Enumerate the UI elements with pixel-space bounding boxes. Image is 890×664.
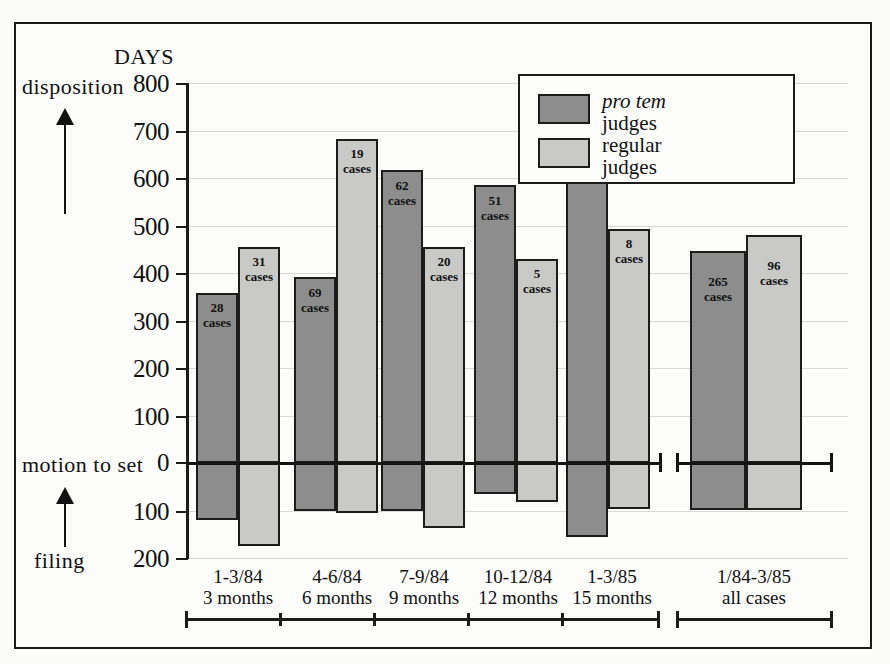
bar-pro-tem-10-12-84-above[interactable] — [474, 185, 516, 463]
bar-regular-10-12-84-below[interactable] — [516, 462, 558, 502]
bar-label-pro-tem-10-12-84: 51 cases — [474, 193, 516, 223]
bar-label-unit: cases — [301, 300, 329, 315]
bar-label-count: 8 — [626, 236, 633, 251]
bar-regular-1-3-84-below[interactable] — [238, 462, 280, 546]
x-label-group-6: 1/84-3/85 all cases — [690, 566, 818, 608]
chart-canvas: 800 700 600 500 400 300 200 100 0 100 20… — [0, 0, 890, 664]
y-tick-label-100: 100 — [105, 404, 169, 429]
y-tick-label-600: 600 — [105, 166, 169, 191]
legend-label-pro-tem-rest: judges — [602, 111, 657, 135]
annotation-filing: filing — [34, 548, 85, 574]
bar-label-unit: cases — [430, 269, 458, 284]
bar-regular-4-6-84-below[interactable] — [336, 462, 378, 513]
bar-label-count: 69 — [309, 285, 322, 300]
y-axis-title: DAYS — [114, 44, 174, 70]
y-tick-600 — [176, 178, 188, 180]
x-label-group-5: 1-3/85 15 months — [552, 566, 672, 608]
ruler-quarters-cap-left — [185, 611, 188, 628]
legend-label-pro-tem: pro tem judges — [602, 90, 666, 134]
gridline-500 — [188, 226, 848, 227]
bar-label-pro-tem-1-3-84: 28 cases — [196, 300, 238, 330]
y-tick-800 — [176, 83, 188, 85]
ruler-tick-3-months — [279, 613, 282, 626]
bar-pro-tem-1-3-84-below[interactable] — [196, 462, 238, 520]
ruler-all-cases-cap-right — [830, 611, 833, 628]
zero-baseline-cap-end — [830, 453, 833, 472]
ruler-tick-12-months — [561, 613, 564, 626]
bar-label-pro-tem-4-6-84: 69 cases — [294, 285, 336, 315]
bar-regular-7-9-84-below[interactable] — [423, 462, 465, 528]
plot-area: 800 700 600 500 400 300 200 100 0 100 20… — [0, 0, 890, 664]
legend: pro tem judges regular judges — [518, 74, 795, 184]
bar-pro-tem-all-cases-below[interactable] — [690, 462, 746, 510]
bar-label-count: 28 — [211, 300, 224, 315]
ruler-tick-9-months — [467, 613, 470, 626]
bar-label-count: 51 — [489, 193, 502, 208]
x-label-span: 12 months — [478, 587, 558, 608]
bar-pro-tem-7-9-84-above[interactable] — [381, 170, 423, 463]
bar-label-unit: cases — [615, 251, 643, 266]
up-arrow-shaft-disposition — [64, 124, 66, 214]
bar-label-pro-tem-7-9-84: 62 cases — [381, 178, 423, 208]
annotation-motion-to-set: motion to set — [22, 452, 143, 478]
bar-label-regular-7-9-84: 20 cases — [423, 254, 465, 284]
x-label-group-1: 1-3/84 3 months — [182, 566, 294, 608]
ruler-quarters-cap-right — [657, 611, 660, 628]
x-label-period: 1/84-3/85 — [717, 566, 791, 587]
x-label-span: 15 months — [572, 587, 652, 608]
y-tick-label-200: 200 — [105, 356, 169, 381]
zero-baseline-main — [188, 462, 661, 465]
y-tick-200 — [176, 368, 188, 370]
ruler-tick-6-months — [373, 613, 376, 626]
x-label-span: 9 months — [389, 587, 459, 608]
y-tick-300 — [176, 321, 188, 323]
bar-regular-4-6-84-above[interactable] — [336, 139, 378, 463]
y-tick-label-500: 500 — [105, 214, 169, 239]
x-label-period: 1-3/84 — [213, 566, 263, 587]
bar-label-count: 62 — [396, 178, 409, 193]
bar-pro-tem-10-12-84-below[interactable] — [474, 462, 516, 494]
bar-label-unit: cases — [203, 315, 231, 330]
legend-label-pro-tem-italic: pro tem — [602, 89, 666, 113]
bar-label-regular-10-12-84: 5 cases — [516, 266, 558, 296]
bar-label-unit: cases — [245, 269, 273, 284]
gridline-neg100 — [188, 511, 848, 512]
bar-label-count: 19 — [351, 146, 364, 161]
legend-label-regular: regular judges — [602, 134, 661, 178]
zero-baseline-cap-right — [676, 453, 679, 472]
bar-label-count: 5 — [534, 266, 541, 281]
x-label-period: 4-6/84 — [312, 566, 362, 587]
bar-label-regular-1-3-85: 8 cases — [608, 236, 650, 266]
bar-label-regular-1-3-84: 31 cases — [238, 254, 280, 284]
x-label-span: all cases — [722, 587, 786, 608]
bar-label-regular-all-cases: 96 cases — [746, 258, 802, 288]
legend-swatch-regular — [538, 138, 590, 168]
bar-pro-tem-1-3-85-below[interactable] — [566, 462, 608, 537]
bar-pro-tem-7-9-84-below[interactable] — [381, 462, 423, 511]
up-arrow-head-disposition — [56, 108, 74, 125]
y-tick-400 — [176, 273, 188, 275]
gridline-neg200 — [188, 558, 848, 559]
legend-swatch-pro-tem — [538, 94, 590, 124]
y-tick-label-700: 700 — [105, 119, 169, 144]
ruler-quarters — [185, 618, 660, 621]
ruler-all-cases — [676, 618, 833, 621]
bar-label-pro-tem-all-cases: 265 cases — [690, 274, 746, 304]
y-tick-label-neg100: 100 — [105, 499, 169, 524]
y-tick-label-neg200: 200 — [105, 546, 169, 571]
bar-label-unit: cases — [760, 273, 788, 288]
bar-regular-all-cases-below[interactable] — [746, 462, 802, 510]
bar-regular-1-3-85-below[interactable] — [608, 462, 650, 509]
zero-baseline-cap-left — [659, 453, 662, 472]
legend-label-regular-first: regular — [602, 133, 661, 157]
bar-label-unit: cases — [481, 208, 509, 223]
bar-label-unit: cases — [704, 289, 732, 304]
legend-label-regular-rest: judges — [602, 155, 657, 179]
bar-label-unit: cases — [523, 281, 551, 296]
y-tick-neg200 — [176, 558, 188, 560]
up-arrow-shaft-filing — [64, 503, 66, 547]
x-label-period: 10-12/84 — [484, 566, 553, 587]
annotation-disposition: disposition — [22, 74, 124, 100]
bar-pro-tem-4-6-84-below[interactable] — [294, 462, 336, 511]
x-label-span: 3 months — [203, 587, 273, 608]
